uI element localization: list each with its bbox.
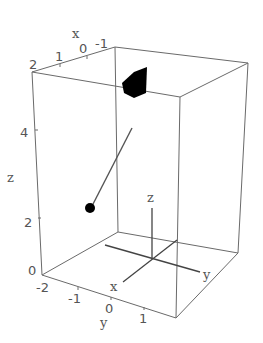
y-axis-label: y (99, 315, 108, 330)
polygon-solid (122, 67, 147, 98)
inner-z-label: z (147, 190, 154, 205)
z-tick-2: 2 (24, 215, 32, 230)
x-axis-ticks: 2 1 0 -1 x (29, 26, 108, 72)
connecting-line (91, 128, 132, 208)
y-tick-neg2: -2 (36, 280, 49, 295)
y-tick-1: 1 (139, 311, 147, 326)
inner-axes: z y x (105, 190, 211, 294)
3d-plot: 2 1 0 -1 x 4 2 0 z -2 -1 0 1 y z y x (0, 0, 263, 343)
x-tick-2: 2 (29, 57, 37, 72)
y-axis-ticks: -2 -1 0 1 y (36, 280, 147, 330)
y-tick-0: 0 (105, 301, 113, 316)
z-tick-0: 0 (28, 263, 36, 278)
inner-y-label: y (202, 267, 211, 282)
y-tick-neg1: -1 (68, 291, 81, 306)
x-tick-0: 0 (79, 41, 87, 56)
x-tick-1: 1 (55, 49, 63, 64)
z-tick-4: 4 (20, 125, 28, 140)
x-axis-label: x (72, 26, 80, 41)
z-axis-label: z (7, 170, 14, 185)
x-tick-neg1: -1 (95, 36, 108, 51)
z-axis-ticks: 4 2 0 z (7, 125, 36, 278)
point-sphere (85, 203, 95, 213)
inner-x-label: x (110, 279, 118, 294)
